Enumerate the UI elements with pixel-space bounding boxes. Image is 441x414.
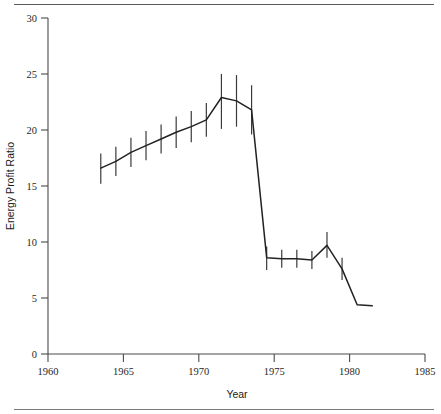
x-axis-tick-label: 1975	[264, 366, 285, 377]
x-axis-tick-label: 1965	[113, 366, 134, 377]
top-divider-rule	[14, 4, 434, 5]
errorbar-group	[101, 74, 342, 280]
y-axis-tick-label: 20	[27, 125, 38, 136]
x-axis: 196019651970197519801985	[38, 354, 436, 377]
x-axis-tick-label: 1960	[38, 366, 59, 377]
y-axis-title: Energy Profit Ratio	[4, 142, 16, 230]
x-axis-tick-label: 1980	[339, 366, 360, 377]
y-axis: 051015202530	[27, 13, 49, 360]
y-axis-tick-label: 25	[27, 69, 38, 80]
data-line-energy-profit-ratio	[101, 98, 372, 306]
y-axis-tick-label: 10	[27, 237, 38, 248]
bottom-divider-rule	[14, 409, 434, 410]
y-axis-tick-label: 15	[27, 181, 38, 192]
x-axis-tick-label: 1985	[415, 366, 436, 377]
y-axis-tick-label: 0	[32, 349, 37, 360]
y-axis-tick-label: 5	[32, 293, 37, 304]
x-axis-tick-label: 1970	[188, 366, 209, 377]
energy-profit-ratio-line-chart: 051015202530 196019651970197519801985 En…	[0, 0, 441, 404]
figure-container: 051015202530 196019651970197519801985 En…	[0, 0, 441, 414]
x-axis-title: Year	[226, 388, 248, 400]
y-axis-tick-label: 30	[27, 13, 38, 24]
